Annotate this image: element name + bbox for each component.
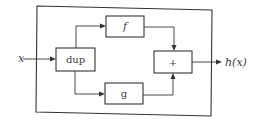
input-label: x bbox=[18, 52, 25, 65]
block-diagram: x dup f g + h(x) bbox=[0, 0, 257, 122]
sum-label: + bbox=[169, 57, 177, 68]
output-label: h(x) bbox=[225, 56, 247, 69]
output-arrowhead bbox=[216, 60, 222, 65]
dup-label: dup bbox=[66, 54, 85, 65]
g-label: g bbox=[121, 88, 128, 99]
